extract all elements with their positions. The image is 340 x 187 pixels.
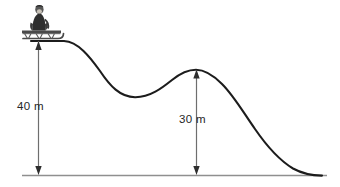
measurement-label-40m: 40 m xyxy=(17,101,44,113)
sled-runner-icon xyxy=(23,34,64,39)
sled-deck-icon xyxy=(22,31,61,35)
measurement-label-30m: 30 m xyxy=(179,114,206,126)
physics-hill-diagram: 40 m 30 m xyxy=(0,0,340,187)
hill-track-curve xyxy=(31,41,322,176)
measurement-arrow-30m-head-bottom xyxy=(193,166,199,175)
sledder-figure xyxy=(22,5,64,39)
measurement-arrow-40m-head-bottom xyxy=(35,166,41,175)
diagram-canvas xyxy=(0,0,340,187)
measurement-arrow-40m-head-top xyxy=(35,41,41,50)
sled-rider-icon xyxy=(30,5,48,31)
